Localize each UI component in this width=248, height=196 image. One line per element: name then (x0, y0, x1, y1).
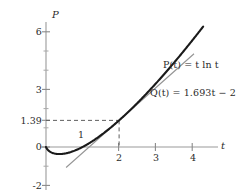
y-tick-label-0: 0 (36, 142, 42, 152)
inline-label-one: 1 (78, 130, 84, 140)
x-tick-label-2: 2 (114, 153, 124, 163)
y-tick-label-3: 3 (36, 85, 42, 95)
equation-label-p: P(t) = t ln t (163, 60, 219, 70)
y-tick-label-minus-2: -2 (33, 181, 42, 191)
y-axis-label: P (52, 10, 59, 20)
y-tick-label-1-39: 1.39 (20, 116, 42, 126)
x-axis-label: t (221, 141, 225, 151)
equation-label-q: Q(t) = 1.693t − 2 (150, 88, 236, 98)
figure-container: P t 6 3 1.39 0 -2 2 3 4 1 P(t) = t ln t … (0, 0, 248, 196)
y-tick-label-6: 6 (36, 27, 42, 37)
x-tick-label-3: 3 (151, 153, 161, 163)
x-tick-label-4: 4 (188, 153, 198, 163)
